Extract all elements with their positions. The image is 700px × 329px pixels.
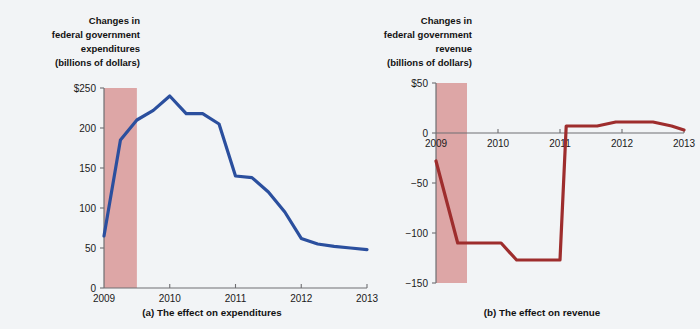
x-tick-label: 2010 <box>487 138 510 149</box>
axis-title-expenditures: Changes in federal government expenditur… <box>52 15 141 68</box>
y-tick-label: 0 <box>90 283 96 294</box>
caption-expenditures: (a) The effect on expenditures <box>142 307 282 318</box>
expenditures-plot-area: 050100150200$25020092010201120122013 <box>74 83 379 305</box>
y-tick-label: 0 <box>422 128 428 139</box>
y-tick-label: 50 <box>85 243 97 254</box>
y-tick-label: 150 <box>79 163 96 174</box>
revenue-chart-svg: Changes in federal government revenue (b… <box>352 0 700 329</box>
svg-text:federal government: federal government <box>52 29 141 40</box>
svg-text:federal government: federal government <box>384 29 473 40</box>
data-series-line <box>104 96 367 250</box>
svg-text:revenue: revenue <box>436 43 472 54</box>
expenditures-chart-svg: Changes in federal government expenditur… <box>0 0 390 329</box>
x-tick-label: 2011 <box>549 138 571 149</box>
chart-panel-expenditures: Changes in federal government expenditur… <box>0 0 390 329</box>
revenue-plot-area: −150−100−500$5020092010201120122013 <box>405 78 695 289</box>
y-tick-label: $250 <box>74 83 97 94</box>
y-tick-label: 200 <box>79 123 96 134</box>
x-tick-label: 2012 <box>290 293 313 304</box>
recession-band <box>104 88 137 288</box>
y-tick-label: −150 <box>405 278 428 289</box>
svg-text:Changes in: Changes in <box>421 15 472 26</box>
figure-container: Changes in federal government expenditur… <box>0 0 700 329</box>
x-tick-label: 2012 <box>611 138 634 149</box>
axis-title-revenue: Changes in federal government revenue (b… <box>384 15 473 68</box>
y-tick-label: −100 <box>405 228 428 239</box>
svg-text:(billions of dollars): (billions of dollars) <box>387 57 472 68</box>
y-tick-label: 100 <box>79 203 96 214</box>
y-tick-label: −50 <box>411 178 428 189</box>
svg-text:(billions of dollars): (billions of dollars) <box>55 57 140 68</box>
x-tick-label: 2009 <box>93 293 116 304</box>
x-tick-label: 2011 <box>225 293 247 304</box>
x-tick-label: 2013 <box>673 138 696 149</box>
caption-revenue: (b) The effect on revenue <box>484 307 601 318</box>
x-tick-label: 2009 <box>425 138 448 149</box>
svg-text:Changes in: Changes in <box>89 15 140 26</box>
x-tick-label: 2010 <box>159 293 182 304</box>
y-tick-label: $50 <box>411 78 428 89</box>
svg-text:expenditures: expenditures <box>81 43 140 54</box>
chart-panel-revenue: Changes in federal government revenue (b… <box>352 0 700 329</box>
